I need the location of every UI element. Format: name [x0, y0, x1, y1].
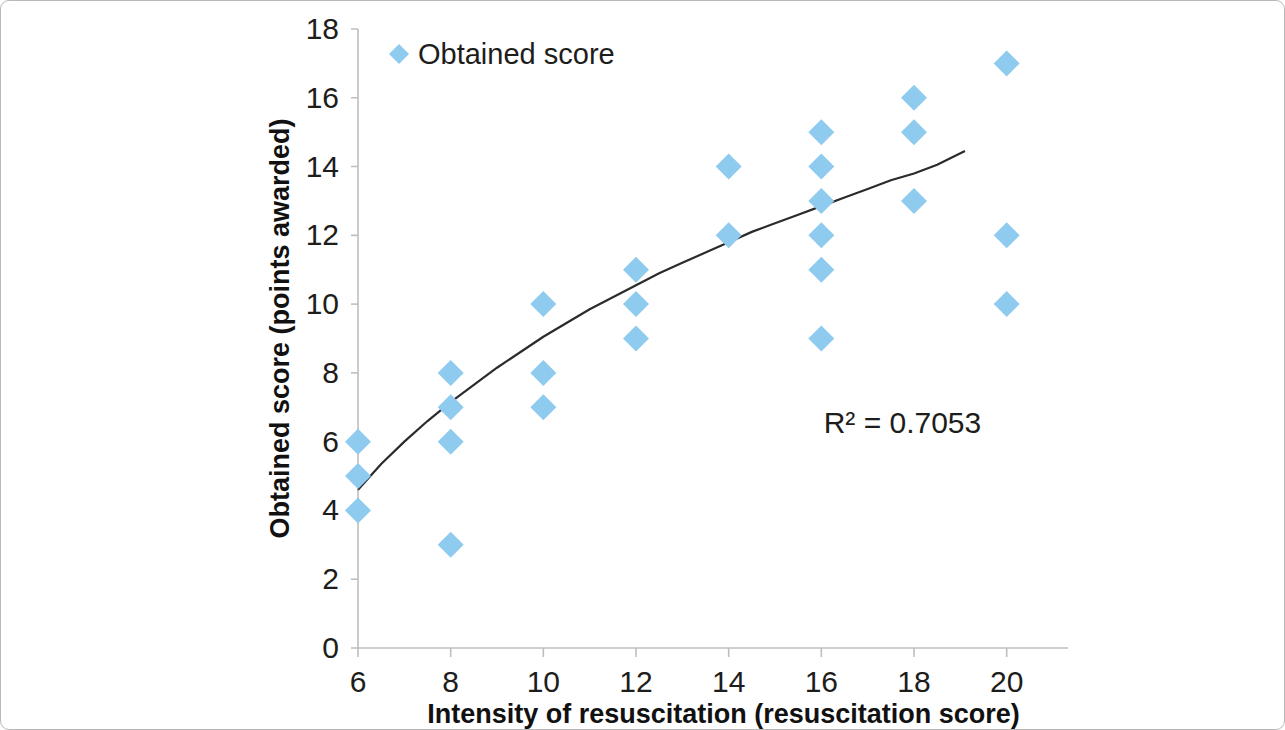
- data-point-diamond: [994, 222, 1020, 248]
- data-point-diamond: [994, 50, 1020, 76]
- y-tick-label: 4: [322, 493, 339, 526]
- y-tick-label: 6: [322, 425, 339, 458]
- r-squared-annotation: R² = 0.7053: [824, 406, 982, 439]
- data-point-diamond: [808, 222, 834, 248]
- chart-legend: Obtained score: [389, 38, 615, 70]
- y-tick-label: 8: [322, 356, 339, 389]
- data-point-diamond: [716, 222, 742, 248]
- data-point-diamond: [808, 119, 834, 145]
- data-point-diamond: [438, 532, 464, 558]
- data-point-diamond: [530, 291, 556, 317]
- x-tick-label: 12: [619, 665, 652, 698]
- y-tick-label: 18: [306, 12, 339, 45]
- data-point-diamond: [438, 360, 464, 386]
- chart-figure: 024681012141618 68101214161820 Obtained …: [0, 0, 1285, 730]
- x-tick-label: 8: [442, 665, 459, 698]
- y-tick-label: 0: [322, 631, 339, 664]
- x-tick-label: 20: [990, 665, 1023, 698]
- data-point-diamond: [623, 326, 649, 352]
- x-axis: 68101214161820: [350, 648, 1068, 698]
- legend-marker-icon: [389, 44, 409, 64]
- data-point-diamond: [345, 429, 371, 455]
- data-point-diamond: [438, 394, 464, 420]
- legend-label: Obtained score: [418, 38, 615, 70]
- data-point-diamond: [808, 257, 834, 283]
- y-axis-title: Obtained score (points awarded): [265, 118, 295, 538]
- data-point-diamond: [901, 119, 927, 145]
- data-point-diamond: [345, 497, 371, 523]
- data-point-diamond: [345, 463, 371, 489]
- data-point-diamond: [901, 85, 927, 111]
- data-point-diamond: [808, 154, 834, 180]
- data-point-diamond: [623, 257, 649, 283]
- y-tick-label: 12: [306, 218, 339, 251]
- data-point-diamond: [808, 326, 834, 352]
- scatter-plot: 024681012141618 68101214161820 Obtained …: [1, 1, 1285, 730]
- x-tick-label: 14: [712, 665, 745, 698]
- y-axis: 024681012141618: [306, 12, 358, 664]
- y-tick-label: 10: [306, 287, 339, 320]
- data-point-diamond: [530, 360, 556, 386]
- x-axis-title: Intensity of resuscitation (resuscitatio…: [427, 699, 1020, 729]
- data-points: [345, 50, 1020, 557]
- y-tick-label: 16: [306, 81, 339, 114]
- data-point-diamond: [438, 429, 464, 455]
- x-tick-label: 16: [805, 665, 838, 698]
- data-point-diamond: [530, 394, 556, 420]
- y-tick-label: 14: [306, 150, 339, 183]
- x-tick-label: 10: [527, 665, 560, 698]
- x-tick-label: 18: [897, 665, 930, 698]
- data-point-diamond: [716, 154, 742, 180]
- data-point-diamond: [994, 291, 1020, 317]
- y-tick-label: 2: [322, 562, 339, 595]
- x-tick-label: 6: [350, 665, 367, 698]
- r-squared-text: R² = 0.7053: [824, 406, 982, 439]
- data-point-diamond: [901, 188, 927, 214]
- data-point-diamond: [623, 291, 649, 317]
